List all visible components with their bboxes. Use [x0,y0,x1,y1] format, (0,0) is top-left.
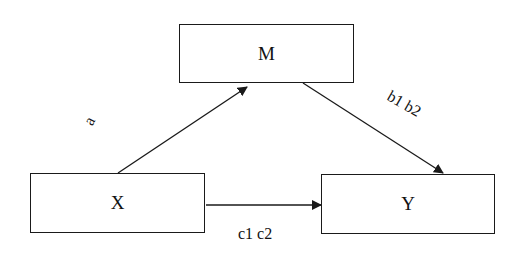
node-m-label: M [258,43,275,65]
node-x: X [30,173,205,233]
node-m: M [179,24,354,83]
edge-m-to-y [303,83,443,173]
mediation-diagram: M X Y a b1 b2 c1 c2 [0,0,521,271]
node-y-label: Y [401,193,415,215]
node-y: Y [321,174,495,234]
edge-label-c1-c2: c1 c2 [238,225,272,243]
node-x-label: X [111,192,125,214]
edge-x-to-m [118,87,247,173]
